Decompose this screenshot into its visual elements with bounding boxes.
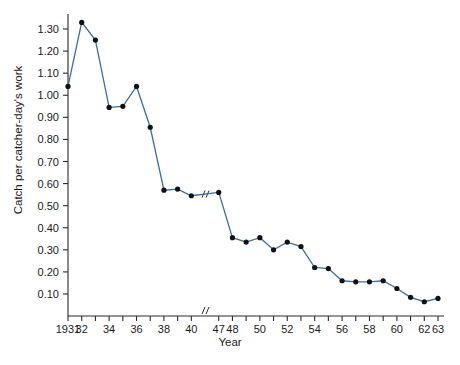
x-tick-label: 50: [254, 323, 266, 335]
data-point: [312, 265, 317, 270]
x-tick-label: 58: [363, 323, 375, 335]
data-point: [339, 278, 344, 283]
data-point: [148, 125, 153, 130]
axis-break-icon: [202, 191, 209, 314]
data-point: [216, 190, 221, 195]
data-point: [422, 299, 427, 304]
data-point: [394, 286, 399, 291]
data-point: [271, 247, 276, 252]
line-chart-plot: 0.100.200.300.400.500.600.700.800.901.00…: [0, 0, 460, 365]
data-point: [435, 296, 440, 301]
data-point: [285, 240, 290, 245]
x-tick-label: 52: [281, 323, 293, 335]
x-tick-label: 34: [103, 323, 115, 335]
data-point: [381, 278, 386, 283]
data-point: [353, 279, 358, 284]
data-point: [120, 104, 125, 109]
y-tick-label: 0.50: [38, 200, 59, 212]
y-tick-label: 0.20: [38, 266, 59, 278]
axis-break-slash: [206, 307, 209, 314]
axis-break-slash: [202, 307, 205, 314]
x-tick-label: 38: [158, 323, 170, 335]
data-point: [93, 37, 98, 42]
x-tick-label: 56: [336, 323, 348, 335]
data-point: [134, 84, 139, 89]
x-tick-label: 62: [418, 323, 430, 335]
x-tick-label: 60: [391, 323, 403, 335]
data-point: [189, 193, 194, 198]
y-tick-label: 0.80: [38, 133, 59, 145]
y-tick-label: 1.30: [38, 23, 59, 35]
series-line-catch: [68, 22, 438, 301]
data-point: [65, 84, 70, 89]
y-tick-label: 0.60: [38, 178, 59, 190]
data-point: [408, 295, 413, 300]
x-tick-label: 40: [185, 323, 197, 335]
x-tick-label: 54: [309, 323, 321, 335]
data-point: [161, 188, 166, 193]
x-tick-label: 48: [226, 323, 238, 335]
data-point: [107, 105, 112, 110]
data-point: [326, 266, 331, 271]
x-axis-ticks: 1931323436384047485052545658606263: [56, 316, 444, 335]
chart-container: Catch per catcher-day's work Year 0.100.…: [0, 0, 460, 365]
y-tick-label: 1.00: [38, 89, 59, 101]
y-tick-label: 0.90: [38, 111, 59, 123]
x-tick-label: 36: [130, 323, 142, 335]
y-tick-label: 0.40: [38, 222, 59, 234]
y-tick-label: 1.10: [38, 67, 59, 79]
x-tick-label: 63: [432, 323, 444, 335]
data-point: [79, 20, 84, 25]
y-tick-label: 0.10: [38, 288, 59, 300]
y-tick-label: 0.70: [38, 156, 59, 168]
y-tick-label: 1.20: [38, 45, 59, 57]
data-point: [230, 235, 235, 240]
data-point: [298, 244, 303, 249]
y-tick-label: 0.30: [38, 244, 59, 256]
x-tick-label: 47: [213, 323, 225, 335]
data-point: [244, 240, 249, 245]
series-markers: [65, 20, 440, 305]
y-axis-ticks: 0.100.200.300.400.500.600.700.800.901.00…: [38, 23, 68, 300]
x-tick-label: 32: [76, 323, 88, 335]
data-point: [367, 279, 372, 284]
axis-lines: [68, 14, 444, 316]
data-point: [257, 235, 262, 240]
data-point: [175, 187, 180, 192]
